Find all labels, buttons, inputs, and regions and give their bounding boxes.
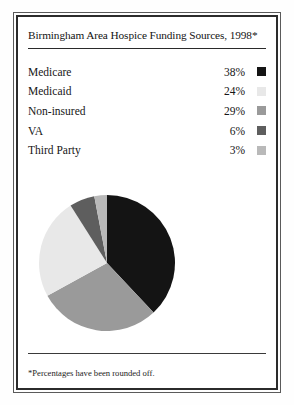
- card-content: Birmingham Area Hospice Funding Sources,…: [18, 17, 276, 388]
- legend-swatch-icon: [257, 146, 266, 155]
- chart-title: Birmingham Area Hospice Funding Sources,…: [28, 29, 266, 41]
- legend-item-non-insured: Non-insured 29%: [28, 101, 266, 121]
- legend-item-third-party: Third Party 3%: [28, 140, 266, 160]
- footnote-divider: [28, 353, 266, 354]
- legend-label: Medicare: [28, 66, 203, 78]
- footnote: *Percentages have been rounded off.: [28, 368, 266, 378]
- legend-swatch-icon: [257, 67, 266, 76]
- legend-swatch-icon: [257, 106, 266, 115]
- pie-chart: [32, 187, 182, 339]
- legend: Medicare 38% Medicaid 24% Non-insured 29…: [28, 62, 266, 160]
- pie-slices: [39, 195, 175, 331]
- title-divider: [28, 48, 266, 49]
- legend-value: 24%: [203, 85, 257, 97]
- chart-card: Birmingham Area Hospice Funding Sources,…: [0, 0, 294, 405]
- legend-value: 6%: [203, 125, 257, 137]
- legend-item-medicaid: Medicaid 24%: [28, 82, 266, 102]
- pie-chart-svg: [32, 187, 182, 339]
- legend-item-va: VA 6%: [28, 121, 266, 141]
- legend-value: 3%: [203, 144, 257, 156]
- legend-label: Medicaid: [28, 85, 203, 97]
- legend-label: VA: [28, 125, 203, 137]
- legend-label: Third Party: [28, 144, 203, 156]
- legend-swatch-icon: [257, 126, 266, 135]
- legend-item-medicare: Medicare 38%: [28, 62, 266, 82]
- legend-label: Non-insured: [28, 105, 203, 117]
- legend-value: 38%: [203, 66, 257, 78]
- legend-value: 29%: [203, 105, 257, 117]
- legend-swatch-icon: [257, 87, 266, 96]
